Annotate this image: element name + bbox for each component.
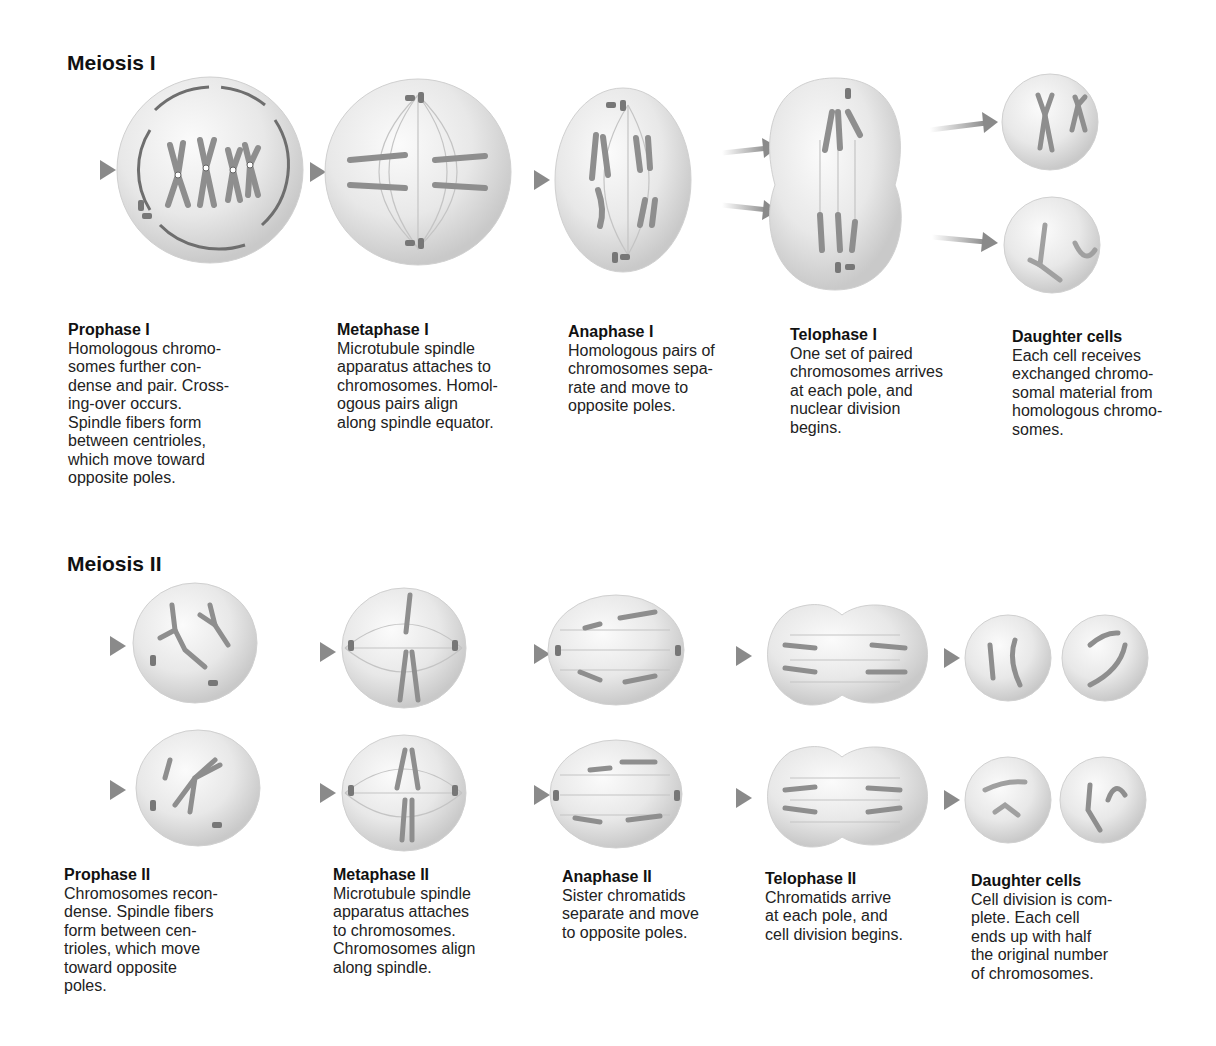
stage-description: Homologous chromo- somes further con- de… xyxy=(68,340,288,488)
stage-description: Chromatids arrive at each pole, and cell… xyxy=(765,889,975,945)
cell-prophase-2b xyxy=(136,730,260,846)
stage-text-prophase-1: Prophase I Homologous chromo- somes furt… xyxy=(68,321,288,488)
stage-text-metaphase-2: Metaphase II Microtubule spindle apparat… xyxy=(333,866,553,977)
cell-telophase-2a xyxy=(768,605,928,705)
cell-telophase-1 xyxy=(770,78,902,290)
stage-name: Telophase I xyxy=(790,326,1010,345)
stage-description: Chromosomes recon- dense. Spindle fibers… xyxy=(64,885,284,996)
cell-metaphase-2a xyxy=(342,588,466,708)
arrow-icon xyxy=(497,785,550,805)
cell-daughter-2b xyxy=(1062,615,1148,701)
stage-description: Microtubule spindle apparatus attaches t… xyxy=(337,340,557,433)
arrow-icon xyxy=(276,783,336,803)
cell-metaphase-2b xyxy=(342,735,466,851)
stage-name: Daughter cells xyxy=(1012,328,1216,347)
stage-text-daughter-cells-1: Daughter cells Each cell receives exchan… xyxy=(1012,328,1216,439)
stage-name: Metaphase I xyxy=(337,321,557,340)
stage-name: Prophase I xyxy=(68,321,288,340)
stage-description: Sister chromatids separate and move to o… xyxy=(562,887,772,943)
stage-name: Daughter cells xyxy=(971,872,1191,891)
arrow-icon xyxy=(930,790,960,810)
stage-text-telophase-2: Telophase II Chromatids arrive at each p… xyxy=(765,870,975,944)
stage-description: Microtubule spindle apparatus attaches t… xyxy=(333,885,553,978)
cell-daughter-1a xyxy=(1002,74,1098,170)
arrow-icon xyxy=(62,780,126,800)
section-title-meiosis-1: Meiosis I xyxy=(67,51,156,75)
stage-description: Cell division is com- plete. Each cell e… xyxy=(971,891,1191,984)
stage-text-metaphase-1: Metaphase I Microtubule spindle apparatu… xyxy=(337,321,557,432)
stage-name: Metaphase II xyxy=(333,866,553,885)
stage-name: Prophase II xyxy=(64,866,284,885)
stage-text-daughter-cells-2: Daughter cells Cell division is com- ple… xyxy=(971,872,1191,983)
stage-description: Each cell receives exchanged chromo- som… xyxy=(1012,347,1216,440)
cell-daughter-2a xyxy=(965,615,1051,701)
arrow-icon xyxy=(60,160,116,180)
arrow-icon xyxy=(276,642,336,662)
cell-metaphase-1 xyxy=(325,79,511,265)
arrow-icon xyxy=(718,646,752,666)
stage-name: Telophase II xyxy=(765,870,975,889)
arrow-icon xyxy=(932,232,998,252)
stage-text-anaphase-2: Anaphase II Sister chromatids separate a… xyxy=(562,868,772,942)
stage-text-anaphase-1: Anaphase I Homologous pairs of chromosom… xyxy=(568,323,788,416)
cell-prophase-2a xyxy=(133,583,257,703)
stage-text-prophase-2: Prophase II Chromosomes recon- dense. Sp… xyxy=(64,866,284,996)
cell-telophase-2b xyxy=(768,747,928,847)
arrow-icon xyxy=(930,648,960,668)
cell-daughter-2d xyxy=(1060,757,1146,843)
cell-daughter-2c xyxy=(965,757,1051,843)
cell-anaphase-2a xyxy=(548,595,684,705)
arrow-icon xyxy=(510,170,550,190)
stage-description: Homologous pairs of chromosomes sepa- ra… xyxy=(568,342,788,416)
arrow-icon xyxy=(497,644,550,664)
arrow-icon xyxy=(718,788,752,808)
stage-description: One set of paired chromosomes arrives at… xyxy=(790,345,1010,438)
cell-prophase-1 xyxy=(117,77,303,263)
cell-anaphase-2b xyxy=(550,740,682,848)
section-title-meiosis-2: Meiosis II xyxy=(67,552,162,576)
stage-name: Anaphase I xyxy=(568,323,788,342)
cell-daughter-1b xyxy=(1004,197,1100,293)
stage-text-telophase-1: Telophase I One set of paired chromosome… xyxy=(790,326,1010,437)
arrow-icon xyxy=(930,112,998,133)
cell-anaphase-1 xyxy=(555,88,691,272)
stage-name: Anaphase II xyxy=(562,868,772,887)
arrow-icon xyxy=(62,636,126,656)
